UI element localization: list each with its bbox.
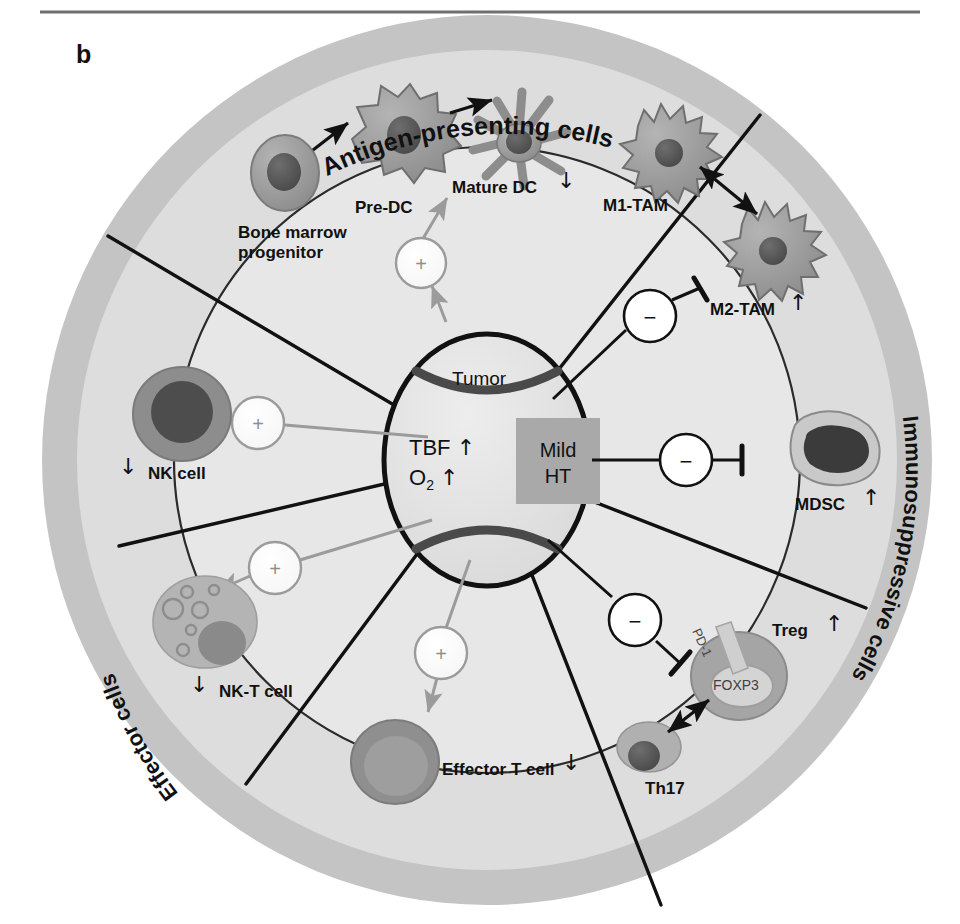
trend-arrow-mdsc: ↑ <box>862 487 880 509</box>
label-line-1: Bone marrow <box>238 223 347 243</box>
tumor-metrics: TBF ↑ O2 ↑ <box>409 433 475 495</box>
trend-arrow-nk-t-cell: ↓ <box>190 674 208 696</box>
ring-label-immunosuppressive-cells: Immunosuppressive cells <box>847 414 926 686</box>
trend-arrow-mature-dc: ↓ <box>557 170 575 192</box>
label-nk-cell: NK cell <box>148 464 206 484</box>
metric-tbf-label: TBF <box>409 435 451 460</box>
trend-arrow-effector-t-cell: ↓ <box>562 752 580 774</box>
label-m1-tam: M1-TAM <box>603 196 668 216</box>
ring-label-layer: Antigen-presenting cells Immunosuppressi… <box>0 0 960 924</box>
label-effector-t-cell: Effector T cell <box>442 760 554 780</box>
trend-arrow-treg: ↑ <box>825 613 843 635</box>
trend-arrow-nk-cell: ↓ <box>119 456 137 478</box>
label-foxp3: FOXP3 <box>713 677 759 693</box>
label-mild-ht: Mild HT <box>527 437 589 489</box>
figure-panel: + + + + − − − <box>0 0 960 924</box>
metric-o2-subscript: 2 <box>426 477 434 493</box>
label-mdsc: MDSC <box>795 495 845 515</box>
label-m2-tam: M2-TAM <box>710 300 775 320</box>
label-tumor: Tumor <box>452 368 506 390</box>
label-mature-dc: Mature DC <box>452 178 537 198</box>
ring-label-effector-cells: Effector cells <box>95 671 183 806</box>
metric-tbf: TBF ↑ <box>409 433 475 463</box>
label-nk-t-cell: NK-T cell <box>219 682 293 702</box>
label-treg: Treg <box>772 621 808 641</box>
metric-o2-label: O <box>409 465 426 490</box>
label-pre-dc: Pre-DC <box>355 198 413 218</box>
trend-arrow-m2-tam: ↑ <box>789 292 807 314</box>
label-mild-ht-line-1: Mild <box>527 437 589 463</box>
metric-o2-arrow: ↑ <box>440 465 458 490</box>
label-bone-marrow-progenitor: Bone marrow progenitor <box>238 223 347 262</box>
metric-o2: O2 ↑ <box>409 463 475 495</box>
metric-tbf-arrow: ↑ <box>457 435 475 460</box>
label-th17: Th17 <box>645 779 685 799</box>
label-line-2: progenitor <box>238 243 347 263</box>
panel-label: b <box>76 40 91 69</box>
label-mild-ht-line-2: HT <box>527 463 589 489</box>
